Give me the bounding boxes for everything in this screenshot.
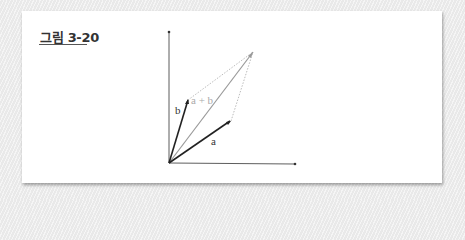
a-arrowhead-icon bbox=[226, 121, 231, 125]
x-axis bbox=[169, 163, 295, 164]
dotted-edge-b-to-sum bbox=[188, 52, 253, 100]
label-a-plus-b: a + b bbox=[191, 94, 214, 106]
x-axis-arrow-icon bbox=[294, 163, 297, 166]
label-b: b bbox=[175, 104, 181, 116]
label-a: a bbox=[211, 135, 216, 147]
vector-a bbox=[169, 121, 230, 163]
y-axis-arrow-icon bbox=[168, 31, 171, 34]
dotted-edge-a-to-sum bbox=[231, 52, 253, 121]
vector-addition-diagram: b a + b a bbox=[0, 0, 465, 200]
